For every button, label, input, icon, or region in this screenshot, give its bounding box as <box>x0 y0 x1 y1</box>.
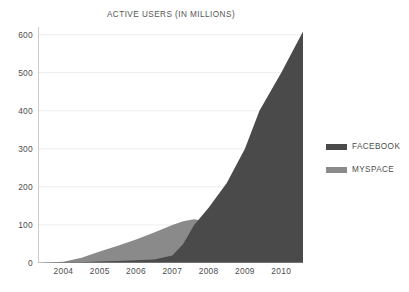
y-tick-label: 400 <box>18 106 33 116</box>
legend-item[interactable]: FACEBOOK <box>326 142 406 151</box>
plot-area <box>38 27 303 263</box>
y-tick-label: 500 <box>18 68 33 78</box>
y-tick-label: 600 <box>18 30 33 40</box>
legend-label: MYSPACE <box>352 165 394 174</box>
legend-item[interactable]: MYSPACE <box>326 165 406 174</box>
y-tick-label: 100 <box>18 220 33 230</box>
x-tick-label: 2004 <box>53 266 73 276</box>
axis-lines <box>38 27 303 263</box>
x-tick-label: 2008 <box>199 266 219 276</box>
x-tick-label: 2005 <box>90 266 110 276</box>
legend-swatch-icon <box>326 144 347 150</box>
x-tick-label: 2010 <box>271 266 291 276</box>
y-tick-label: 200 <box>18 182 33 192</box>
legend-swatch-icon <box>326 167 347 173</box>
area-chart-figure: ACTIVE USERS (IN MILLIONS) 0100200300400… <box>0 0 409 292</box>
y-axis-tick-labels: 0100200300400500600 <box>0 27 33 263</box>
chart-legend: FACEBOOKMYSPACE <box>326 142 406 188</box>
x-tick-label: 2006 <box>126 266 146 276</box>
y-tick-label: 300 <box>18 144 33 154</box>
chart-title: ACTIVE USERS (IN MILLIONS) <box>38 10 304 19</box>
x-axis-tick-labels: 2004200520062007200820092010 <box>38 266 303 280</box>
x-tick-label: 2009 <box>235 266 255 276</box>
legend-label: FACEBOOK <box>352 142 400 151</box>
y-tick-label: 0 <box>28 258 33 268</box>
x-tick-label: 2007 <box>162 266 182 276</box>
